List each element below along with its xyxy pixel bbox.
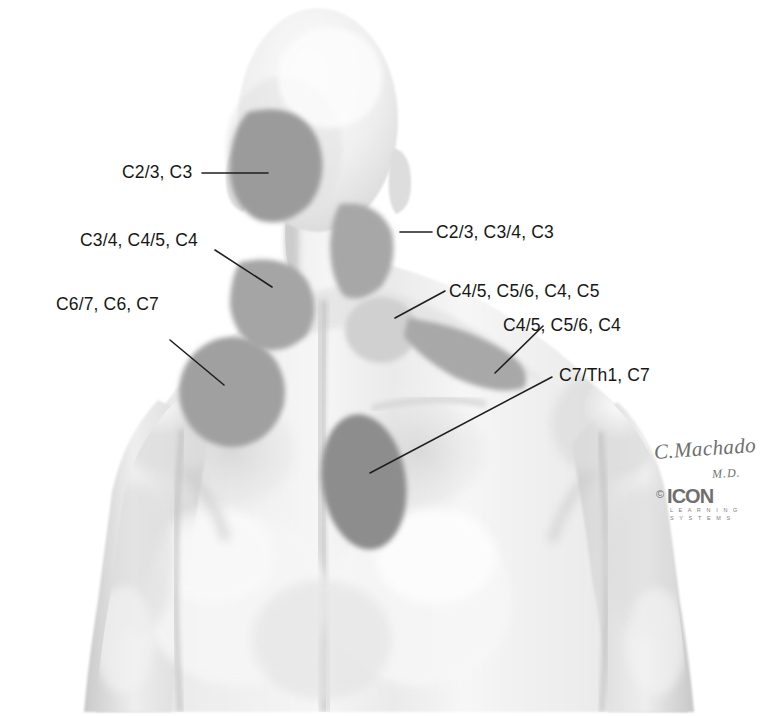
anatomical-illustration (0, 0, 784, 716)
scapular-patch (179, 337, 285, 447)
label-supraspinous: C4/5, C5/6, C4, C5 (449, 283, 600, 301)
label-shoulder-deltoid: C4/5, C5/6, C4 (503, 317, 621, 335)
copyright-symbol: © (656, 489, 664, 500)
brand-subline-learning: L E A R N I N G (670, 506, 740, 514)
publisher-credit: © ICON L E A R N I N G S Y S T E M S (656, 486, 740, 523)
occipital-patch (230, 109, 323, 222)
artist-credential: M.D. (712, 465, 757, 482)
label-lateral-neck: C2/3, C3/4, C3 (436, 224, 554, 242)
label-medial-scapula: C6/7, C6, C7 (56, 296, 159, 314)
label-occipital: C2/3, C3 (122, 164, 192, 182)
label-nuchal: C3/4, C4/5, C4 (80, 232, 198, 250)
brand-subline-systems: S Y S T E M S (670, 514, 740, 522)
icon-brand-wordmark: ICON (667, 486, 713, 506)
label-interscapular: C7/Th1, C7 (559, 367, 650, 385)
artist-signature: C.Machado M.D. (654, 440, 756, 482)
